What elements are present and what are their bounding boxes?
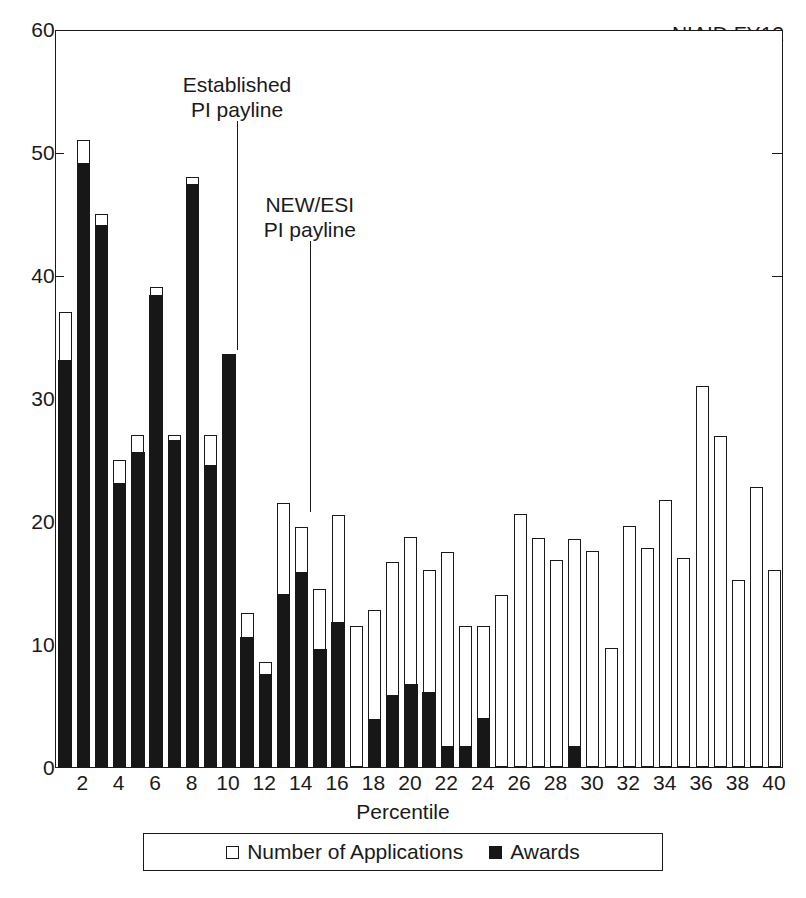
- x-tick-label-34: 34: [645, 772, 685, 794]
- bar-percentile-30: [586, 551, 599, 767]
- bar-percentile-24: [477, 626, 490, 767]
- bar-percentile-16: [332, 515, 345, 767]
- bar-awards-segment-9: [204, 465, 217, 768]
- bar-percentile-31: [605, 648, 618, 767]
- bar-awards-segment-6: [149, 295, 162, 767]
- bar-percentile-11: [241, 613, 254, 767]
- bar-awards-segment-11: [240, 637, 253, 767]
- x-tick-label-6: 6: [135, 772, 175, 794]
- bar-awards-segment-21: [422, 692, 435, 767]
- x-tick-label-18: 18: [354, 772, 394, 794]
- x-tick-label-22: 22: [426, 772, 466, 794]
- y-tick-mark-40: [55, 276, 64, 277]
- bar-awards-segment-5: [131, 452, 144, 767]
- legend-item-awards: Awards: [489, 840, 580, 864]
- y-tick-mark-right-40: [772, 276, 782, 277]
- bar-percentile-28: [550, 560, 563, 767]
- bar-percentile-37: [714, 436, 727, 767]
- bar-awards-segment-19: [386, 695, 399, 768]
- bar-awards-segment-15: [313, 649, 326, 767]
- bar-percentile-19: [386, 562, 399, 767]
- bar-percentile-36: [696, 386, 709, 767]
- bar-percentile-14: [295, 527, 308, 767]
- y-tick-label-20: 20: [15, 511, 55, 532]
- bar-percentile-23: [459, 626, 472, 767]
- new-esi-pi-payline-label: NEW/ESI PI payline: [225, 192, 395, 242]
- bar-percentile-20: [404, 537, 417, 767]
- bar-percentile-35: [677, 558, 690, 767]
- x-axis-title: Percentile: [0, 800, 806, 824]
- bar-percentile-40: [768, 570, 781, 767]
- bar-percentile-39: [750, 487, 763, 767]
- bar-percentile-18: [368, 610, 381, 767]
- bar-percentile-12: [259, 662, 272, 767]
- legend-label-awards: Awards: [510, 840, 580, 864]
- bar-percentile-2: [77, 140, 90, 767]
- bars-layer: [56, 31, 782, 767]
- bar-awards-segment-1: [58, 360, 71, 767]
- bar-awards-segment-10: [222, 354, 235, 767]
- bar-percentile-9: [204, 435, 217, 767]
- y-tick-label-40: 40: [15, 265, 55, 286]
- x-tick-label-24: 24: [463, 772, 503, 794]
- bar-percentile-34: [659, 500, 672, 767]
- bar-percentile-33: [641, 548, 654, 767]
- y-tick-mark-right-50: [772, 153, 782, 154]
- plot-area: [55, 30, 783, 768]
- y-tick-label-0: 0: [15, 757, 55, 778]
- x-tick-label-26: 26: [499, 772, 539, 794]
- legend-item-applications: Number of Applications: [226, 840, 463, 864]
- x-tick-label-4: 4: [99, 772, 139, 794]
- filled-square-icon: [489, 846, 502, 859]
- bar-awards-segment-23: [459, 746, 472, 767]
- established-pi-payline-label: Established PI payline: [147, 72, 327, 122]
- bar-percentile-8: [186, 177, 199, 767]
- y-tick-label-10: 10: [15, 634, 55, 655]
- x-tick-label-12: 12: [244, 772, 284, 794]
- x-tick-label-32: 32: [608, 772, 648, 794]
- open-square-icon: [226, 846, 239, 859]
- x-tick-label-20: 20: [390, 772, 430, 794]
- bar-awards-segment-14: [295, 572, 308, 768]
- bar-percentile-21: [423, 570, 436, 767]
- y-axis: 0102030405060: [0, 0, 55, 898]
- bar-percentile-4: [113, 460, 126, 768]
- bar-awards-segment-18: [368, 719, 381, 767]
- new-esi-pi-payline-line: [310, 241, 311, 512]
- x-tick-label-14: 14: [281, 772, 321, 794]
- bar-awards-segment-29: [568, 746, 581, 767]
- bar-awards-segment-22: [441, 746, 454, 767]
- bar-percentile-22: [441, 552, 454, 767]
- x-tick-label-36: 36: [681, 772, 721, 794]
- bar-percentile-29: [568, 539, 581, 767]
- y-tick-mark-50: [55, 153, 64, 154]
- bar-awards-segment-16: [331, 622, 344, 767]
- bar-percentile-13: [277, 503, 290, 767]
- x-tick-label-40: 40: [754, 772, 794, 794]
- bar-awards-segment-8: [186, 184, 199, 767]
- x-tick-label-16: 16: [317, 772, 357, 794]
- bar-percentile-3: [95, 214, 108, 768]
- y-tick-label-60: 60: [15, 19, 55, 40]
- bar-awards-segment-3: [95, 225, 108, 767]
- x-tick-label-10: 10: [208, 772, 248, 794]
- x-tick-label-30: 30: [572, 772, 612, 794]
- chart-legend: Number of Applications Awards: [143, 833, 663, 871]
- bar-awards-segment-7: [168, 440, 181, 767]
- bar-awards-segment-13: [277, 594, 290, 767]
- x-tick-label-38: 38: [718, 772, 758, 794]
- bar-awards-segment-20: [404, 684, 417, 768]
- bar-awards-segment-2: [77, 163, 90, 767]
- bar-percentile-6: [150, 287, 163, 767]
- bar-percentile-32: [623, 526, 636, 767]
- legend-label-applications: Number of Applications: [247, 840, 463, 864]
- bar-percentile-38: [732, 580, 745, 767]
- bar-percentile-5: [131, 435, 144, 767]
- x-tick-label-2: 2: [62, 772, 102, 794]
- chart-figure: NIAID FY12 0102030405060 246810121416182…: [0, 0, 806, 898]
- bar-percentile-26: [514, 514, 527, 767]
- x-tick-label-8: 8: [172, 772, 212, 794]
- bar-percentile-1: [59, 312, 72, 767]
- bar-percentile-27: [532, 538, 545, 767]
- bar-percentile-17: [350, 626, 363, 767]
